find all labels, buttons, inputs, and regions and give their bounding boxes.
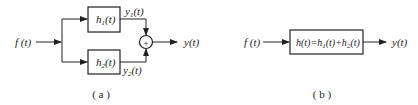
block-h1: h1(t) bbox=[88, 7, 120, 32]
output-label-b: y(t) bbox=[391, 36, 408, 49]
svg-text:+: + bbox=[143, 38, 148, 48]
y2-label: y2(t) bbox=[122, 64, 142, 78]
summer-icon: + bbox=[140, 36, 153, 49]
caption-a: ( a ) bbox=[92, 88, 110, 101]
y1-label: y1(t) bbox=[124, 5, 144, 19]
top-output-arrow bbox=[120, 19, 146, 35]
svg-text:h1(t): h1(t) bbox=[96, 13, 116, 27]
block-h-equivalent: h(t)=h1(t)+h2(t) bbox=[290, 30, 363, 54]
bottom-output-arrow bbox=[120, 49, 146, 62]
input-label-b: f (t) bbox=[244, 36, 261, 49]
caption-b: ( b ) bbox=[313, 88, 332, 101]
svg-text:h2(t): h2(t) bbox=[96, 56, 116, 70]
output-label-a: y(t) bbox=[183, 36, 200, 49]
diagram-canvas: f (t) h1(t) h2(t) y1(t) y2(t) + y(t) ( a… bbox=[0, 0, 418, 105]
block-h2: h2(t) bbox=[88, 50, 120, 74]
diagram-a-parallel-system: f (t) h1(t) h2(t) y1(t) y2(t) + y(t) ( a… bbox=[15, 5, 200, 101]
diagram-b-equivalent-system: f (t) h(t)=h1(t)+h2(t) y(t) ( b ) bbox=[244, 30, 408, 101]
input-label-a: f (t) bbox=[15, 36, 32, 49]
